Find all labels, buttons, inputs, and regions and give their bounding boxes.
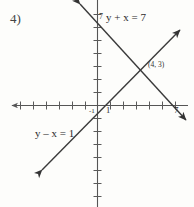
y-axis-tick-label-7: 7 <box>99 13 103 21</box>
line-y-minus-x-equals-1 <box>42 30 180 170</box>
equation-label-y-plus-x: y + x = 7 <box>106 12 146 23</box>
y-axis-tick-label-negative-1: -1 <box>89 108 95 115</box>
intersection-point-label: (4, 3) <box>148 61 164 69</box>
x-axis <box>12 102 188 110</box>
problem-number: 4) <box>10 12 21 25</box>
coordinate-plane-graph <box>0 0 194 207</box>
x-axis-tick-label-7: 7 <box>174 106 179 115</box>
worksheet-graph-figure: 4) y + x = 7 y – x = 1 (4, 3) 7 7 1 -1 <box>0 0 194 207</box>
y-axis <box>94 0 102 207</box>
equation-label-y-minus-x: y – x = 1 <box>35 128 74 139</box>
x-axis-tick-label-1: 1 <box>106 106 110 115</box>
